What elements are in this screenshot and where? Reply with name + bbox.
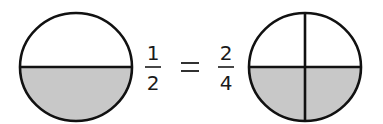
right-fraction: 2 4 [218, 41, 234, 95]
left-fraction-numerator: 1 [147, 41, 160, 65]
left-circle-halves [20, 13, 132, 121]
equivalent-fractions-diagram: 1 2 2 4 [0, 0, 383, 124]
left-fraction-denominator: 2 [147, 71, 160, 95]
right-fraction-denominator: 4 [220, 71, 233, 95]
right-fraction-numerator: 2 [220, 41, 233, 65]
left-circle-shaded-bottom-half [20, 67, 132, 121]
left-fraction: 1 2 [145, 41, 161, 95]
equals-sign [181, 63, 199, 71]
right-circle-quarters [249, 13, 361, 121]
